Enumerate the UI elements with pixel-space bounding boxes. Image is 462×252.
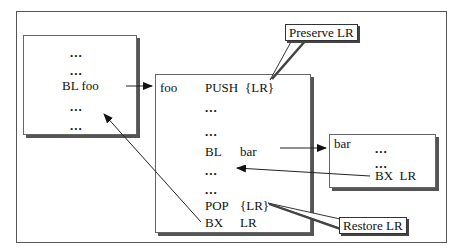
return-foo-arrow bbox=[237, 168, 370, 176]
restore-lr-callout: Restore LR bbox=[339, 217, 407, 234]
return-caller-arrow bbox=[104, 114, 201, 222]
connector-lines bbox=[0, 0, 462, 252]
preserve-lr-callout: Preserve LR bbox=[285, 24, 358, 41]
